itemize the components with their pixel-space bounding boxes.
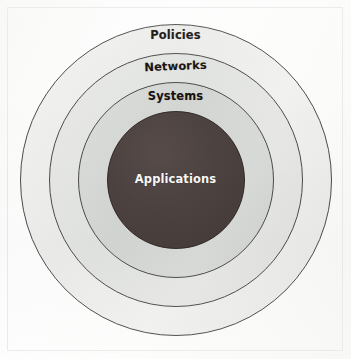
label-systems: Systems (0, 89, 351, 103)
label-applications: Applications (0, 172, 351, 186)
label-policies: Policies (0, 28, 351, 42)
concentric-layers-figure: Policies Networks Systems Applications (0, 0, 351, 359)
